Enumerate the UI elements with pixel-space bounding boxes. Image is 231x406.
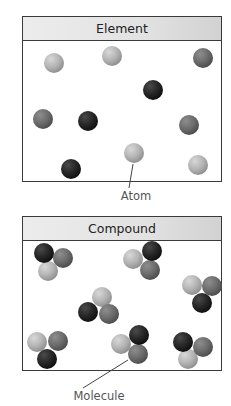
atom-dark bbox=[61, 159, 81, 179]
molecule bbox=[173, 332, 213, 369]
molecule-label: Molecule bbox=[73, 389, 124, 403]
atom-light bbox=[124, 143, 144, 163]
atom-medium bbox=[193, 337, 213, 357]
atom-medium bbox=[140, 260, 160, 280]
molecule bbox=[182, 275, 222, 313]
atom-light bbox=[188, 155, 208, 175]
atom-dark bbox=[78, 111, 98, 131]
atom-dark bbox=[34, 243, 54, 263]
atom-dark bbox=[78, 302, 98, 322]
atom-light bbox=[102, 46, 122, 66]
atom-dark bbox=[37, 349, 57, 369]
atom-dark bbox=[129, 325, 149, 345]
atom-medium bbox=[193, 48, 213, 68]
atom-light bbox=[27, 332, 47, 352]
atom-dark bbox=[173, 332, 193, 352]
diagram-canvas bbox=[0, 0, 231, 406]
atom-light bbox=[44, 53, 64, 73]
element-atoms bbox=[33, 46, 213, 179]
compound-molecules bbox=[27, 241, 222, 369]
atom-dark bbox=[142, 241, 162, 261]
atom-medium bbox=[53, 248, 73, 268]
atom-dark bbox=[143, 80, 163, 100]
atom-callout-line bbox=[129, 164, 133, 188]
atom-medium bbox=[99, 304, 119, 324]
atom-light bbox=[123, 249, 143, 269]
molecule bbox=[123, 241, 162, 280]
atom-light bbox=[182, 275, 202, 295]
atom-medium bbox=[128, 344, 148, 364]
atom-dark bbox=[192, 293, 212, 313]
atom-label: Atom bbox=[121, 189, 151, 203]
molecule-callout-line bbox=[83, 360, 128, 388]
atom-medium bbox=[48, 331, 68, 351]
atom-medium bbox=[202, 276, 222, 296]
atom-medium bbox=[33, 109, 53, 129]
atom-light bbox=[111, 334, 131, 354]
molecule bbox=[27, 331, 68, 369]
molecule bbox=[111, 325, 149, 364]
molecule bbox=[78, 287, 119, 324]
atom-medium bbox=[179, 115, 199, 135]
molecule bbox=[34, 243, 73, 281]
